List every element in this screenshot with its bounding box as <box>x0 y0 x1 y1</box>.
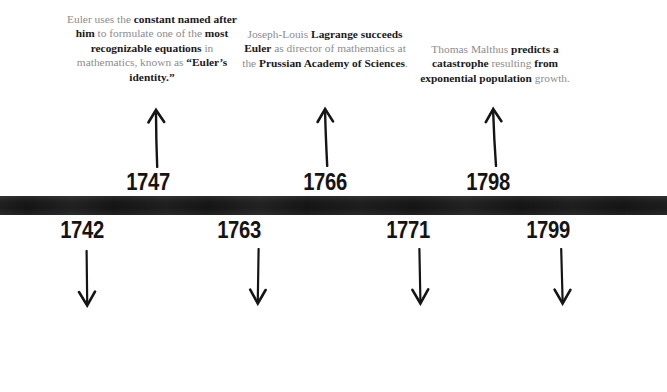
event-note-1766: Joseph-Louis Lagrange succeeds Euler as … <box>241 27 409 70</box>
arrow-up-icon <box>313 105 339 167</box>
timeline-bar <box>0 196 667 215</box>
arrow-up-icon <box>481 105 507 167</box>
timeline-infographic: Euler uses the constant named after him … <box>0 0 667 392</box>
arrow-down-icon <box>549 248 575 306</box>
year-label: 1798 <box>456 169 519 196</box>
year-label: 1763 <box>207 217 270 244</box>
arrow-up-icon <box>144 106 170 168</box>
arrow-down-icon <box>74 250 100 308</box>
year-label: 1799 <box>516 217 579 244</box>
year-label: 1742 <box>50 217 113 244</box>
arrow-down-icon <box>407 248 433 306</box>
event-note-1747: Euler uses the constant named after him … <box>62 12 242 84</box>
arrow-down-icon <box>245 248 271 306</box>
year-label: 1766 <box>293 169 356 196</box>
event-note-1798: Thomas Malthus predicts a catastrophe re… <box>414 42 576 85</box>
year-label: 1771 <box>376 217 439 244</box>
year-label: 1747 <box>116 169 179 196</box>
